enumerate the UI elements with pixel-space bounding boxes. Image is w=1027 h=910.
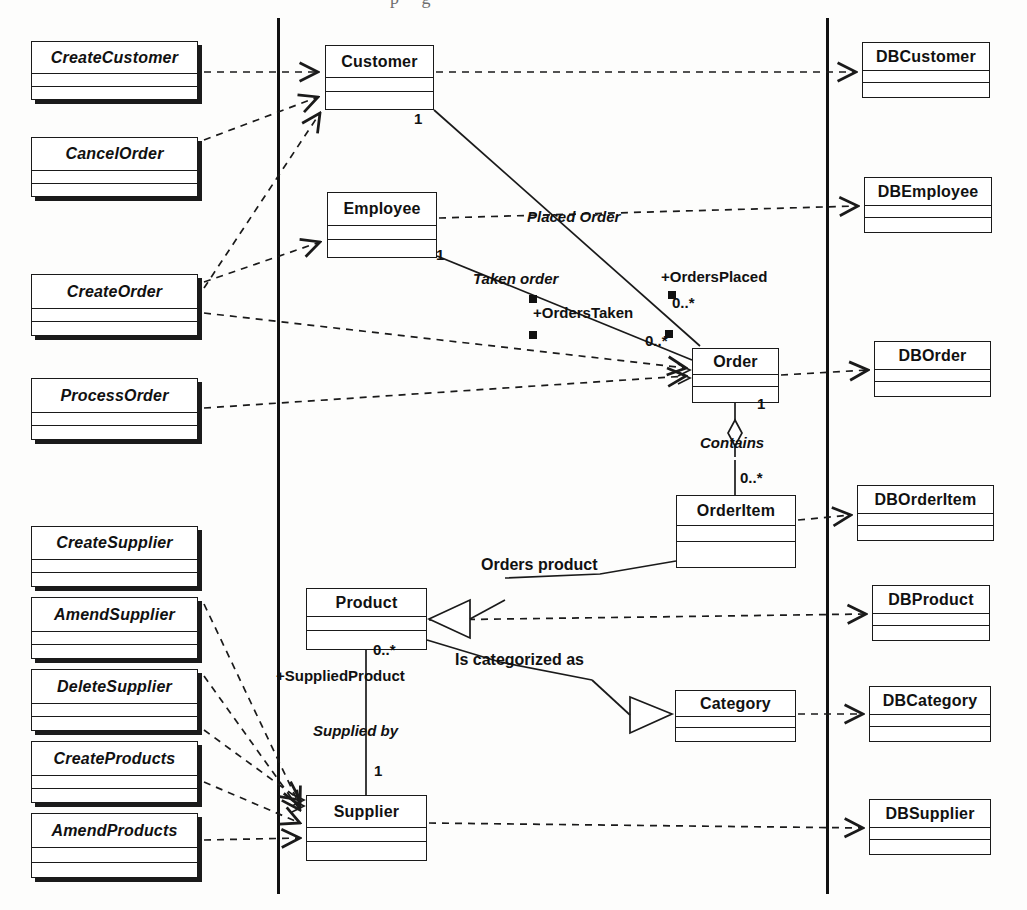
connector-arrowhead-layer [0,0,1027,910]
uml-diagram-canvas: p g [0,0,1027,910]
